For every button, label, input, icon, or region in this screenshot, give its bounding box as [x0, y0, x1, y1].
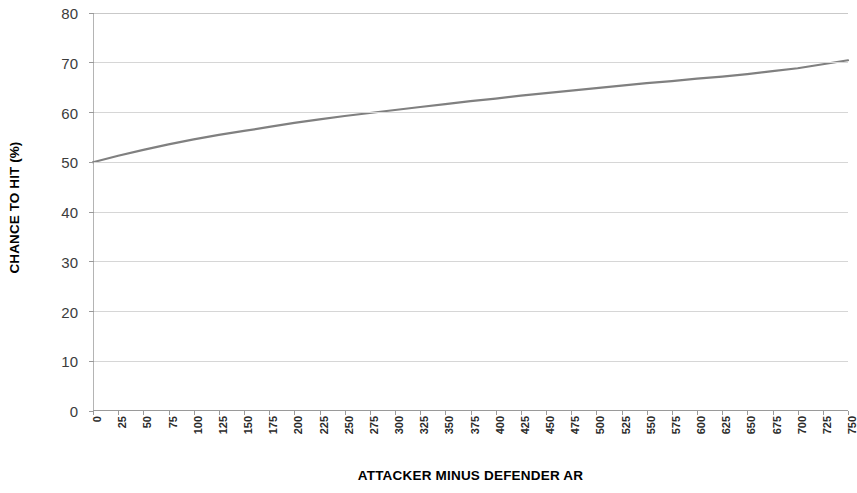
y-axis-title-label: CHANCE TO HIT (%)	[8, 142, 23, 274]
x-ticklabel-500: 500	[595, 416, 606, 434]
x-ticklabel-375: 375	[469, 416, 480, 434]
x-ticklabel-200: 200	[293, 416, 304, 434]
y-ticklabel-30: 30	[61, 253, 78, 270]
x-ticklabel-75: 75	[167, 416, 178, 428]
x-axis-title: ATTACKER MINUS DEFENDER AR	[93, 468, 848, 483]
x-ticklabel-675: 675	[771, 416, 782, 434]
x-ticklabel-125: 125	[217, 416, 228, 434]
x-ticklabel-350: 350	[444, 416, 455, 434]
x-ticklabel-250: 250	[343, 416, 354, 434]
gridline-y-30	[93, 261, 848, 262]
x-ticklabel-575: 575	[670, 416, 681, 434]
y-tickmark-30	[89, 261, 94, 262]
gridline-y-40	[93, 212, 848, 213]
y-ticklabel-40: 40	[61, 204, 78, 221]
y-tickmark-80	[89, 13, 94, 14]
x-ticklabel-525: 525	[620, 416, 631, 434]
y-ticklabel-10: 10	[61, 353, 78, 370]
x-ticklabel-650: 650	[746, 416, 757, 434]
y-ticklabel-70: 70	[61, 54, 78, 71]
plot-area	[93, 13, 848, 411]
x-ticklabel-700: 700	[796, 416, 807, 434]
gridline-y-20	[93, 311, 848, 312]
gridline-y-10	[93, 361, 848, 362]
gridline-y-70	[93, 62, 848, 63]
y-tickmark-40	[89, 212, 94, 213]
x-ticklabel-50: 50	[142, 416, 153, 428]
y-ticklabel-80: 80	[61, 5, 78, 22]
x-ticklabel-175: 175	[268, 416, 279, 434]
x-ticklabel-475: 475	[570, 416, 581, 434]
x-ticklabel-300: 300	[394, 416, 405, 434]
y-ticklabel-0: 0	[70, 403, 78, 420]
y-ticklabel-60: 60	[61, 104, 78, 121]
y-axis-title: CHANCE TO HIT (%)	[0, 0, 30, 415]
y-tickmark-70	[89, 62, 94, 63]
x-ticklabel-100: 100	[192, 416, 203, 434]
x-ticklabel-225: 225	[318, 416, 329, 434]
x-ticklabel-600: 600	[696, 416, 707, 434]
y-ticklabel-20: 20	[61, 303, 78, 320]
x-axis-tick-labels: 0255075100125150175200225250275300325350…	[93, 414, 848, 466]
gridline-y-50	[93, 162, 848, 163]
x-ticklabel-625: 625	[721, 416, 732, 434]
x-ticklabel-725: 725	[821, 416, 832, 434]
x-tickmark-750	[848, 411, 849, 415]
x-ticklabel-25: 25	[117, 416, 128, 428]
x-ticklabel-0: 0	[92, 416, 103, 422]
x-ticklabel-425: 425	[519, 416, 530, 434]
x-ticklabel-400: 400	[494, 416, 505, 434]
y-axis-tick-labels: 01020304050607080	[40, 0, 86, 425]
x-ticklabel-325: 325	[419, 416, 430, 434]
x-ticklabel-750: 750	[847, 416, 857, 434]
y-tickmark-60	[89, 112, 94, 113]
x-ticklabel-275: 275	[368, 416, 379, 434]
gridline-y-60	[93, 112, 848, 113]
y-tickmark-50	[89, 162, 94, 163]
x-ticklabel-150: 150	[243, 416, 254, 434]
y-ticklabel-50: 50	[61, 154, 78, 171]
chart-container: CHANCE TO HIT (%) 01020304050607080 0255…	[0, 0, 857, 493]
y-tickmark-20	[89, 311, 94, 312]
x-ticklabel-450: 450	[545, 416, 556, 434]
gridline-y-80	[93, 13, 848, 14]
x-ticklabel-550: 550	[645, 416, 656, 434]
y-tickmark-10	[89, 361, 94, 362]
